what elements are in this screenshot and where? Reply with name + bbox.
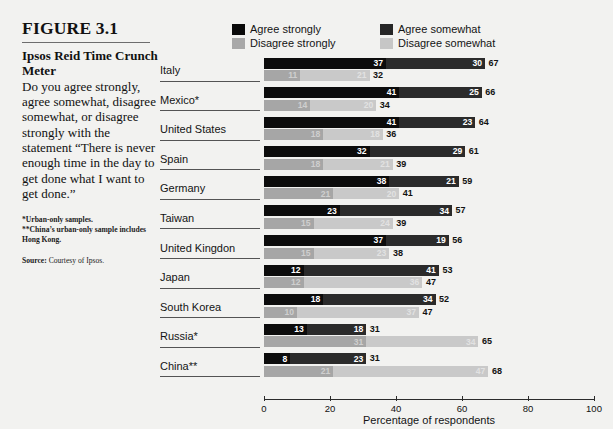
country-label: Spain [160, 153, 252, 165]
figure-rule [22, 42, 150, 43]
bar-segment-agree-strongly: 37 [264, 235, 386, 246]
bar-segment-value: 21 [446, 177, 459, 186]
legend-item-label: Disagree strongly [250, 37, 336, 49]
bar-total-value: 65 [482, 336, 492, 347]
disagree-bar-row: 152338 [264, 248, 403, 259]
bar-segment-value: 23 [354, 355, 367, 364]
bar-segment-value: 20 [364, 101, 377, 110]
bar-segment-value: 31 [354, 338, 367, 347]
bar-segment-agree-somewhat: 18 [307, 324, 366, 335]
country-label: Italy [160, 64, 252, 76]
country-label-rule [160, 81, 260, 82]
bar-total-value: 41 [403, 188, 413, 199]
country-group: United States412364181836 [160, 115, 600, 145]
legend-item-agree-somewhat: Agree somewhat [380, 23, 562, 35]
agree-bar-row: 371956 [264, 235, 462, 246]
country-group: Germany382159212041 [160, 174, 600, 204]
bar-segment-value: 23 [377, 249, 390, 258]
disagree-bar-row: 152439 [264, 218, 406, 229]
bar-segment-value: 47 [476, 367, 489, 376]
agree-bar-row: 322961 [264, 146, 479, 157]
axis-tick-label: 100 [586, 403, 602, 414]
bar-segment-value: 38 [377, 177, 390, 186]
bar-segment-disagree-somewhat: 21 [300, 70, 369, 81]
figure-container: FIGURE 3.1 Ipsos Reid Time Crunch Meter … [0, 0, 613, 429]
bar-segment-agree-strongly: 41 [264, 117, 399, 128]
bar-segment-agree-strongly: 8 [264, 353, 290, 364]
bar-total-value: 61 [469, 146, 479, 157]
bar-segment-agree-strongly: 37 [264, 58, 386, 69]
bar-segment-value: 13 [294, 325, 307, 334]
bar-segment-agree-strongly: 32 [264, 146, 370, 157]
bar-segment-disagree-somewhat: 24 [314, 218, 393, 229]
figure-description: Do you agree strongly, agree somewhat, d… [22, 79, 162, 202]
bars-wrapper: 371956152338 [264, 234, 594, 264]
bar-segment-value: 32 [357, 147, 370, 156]
country-group: South Korea183452103747 [160, 293, 600, 323]
country-label: Russia* [160, 330, 252, 342]
bar-segment-disagree-somewhat: 47 [333, 366, 488, 377]
bar-segment-value: 14 [298, 101, 311, 110]
agree-bar-row: 131831 [264, 324, 380, 335]
agree-bar-row: 124153 [264, 265, 452, 276]
bar-total-value: 53 [442, 265, 452, 276]
bar-segment-value: 18 [311, 130, 324, 139]
country-group: Japan124153123647 [160, 263, 600, 293]
bar-segment-disagree-strongly: 15 [264, 248, 314, 259]
bar-total-value: 34 [380, 100, 390, 111]
bar-segment-disagree-strongly: 21 [264, 188, 333, 199]
bar-segment-agree-strongly: 23 [264, 205, 340, 216]
bar-segment-value: 29 [453, 147, 466, 156]
bar-segment-value: 12 [291, 278, 304, 287]
legend-swatch-icon [232, 38, 245, 49]
agree-bar-row: 373067 [264, 58, 499, 69]
bar-total-value: 57 [456, 205, 466, 216]
country-label-rule [160, 347, 260, 348]
legend-swatch-icon [232, 24, 245, 35]
bar-segment-disagree-strongly: 18 [264, 159, 323, 170]
disagree-bar-row: 212041 [264, 188, 413, 199]
disagree-bar-row: 182139 [264, 159, 406, 170]
bar-segment-value: 21 [321, 367, 334, 376]
bar-segment-disagree-strongly: 31 [264, 336, 366, 347]
bar-segment-value: 23 [327, 207, 340, 216]
axis-tick-label: 0 [261, 403, 266, 414]
bars-wrapper: 124153123647 [264, 263, 594, 293]
agree-bar-row: 412566 [264, 87, 495, 98]
country-label: United States [160, 123, 252, 135]
country-label-rule [160, 228, 260, 229]
bar-segment-disagree-strongly: 14 [264, 100, 310, 111]
bar-segment-value: 37 [407, 308, 420, 317]
footnotes: *Urban-only samples. **China’s urban-onl… [22, 215, 162, 245]
bar-segment-agree-somewhat: 41 [304, 265, 439, 276]
country-group: Taiwan233457152439 [160, 204, 600, 234]
figure-number: FIGURE 3.1 [22, 18, 162, 42]
bar-segment-agree-somewhat: 23 [290, 353, 366, 364]
plot-area: Italy373067112132Mexico*412566142034Unit… [160, 56, 600, 406]
bar-segment-value: 12 [291, 266, 304, 275]
country-label-rule [160, 288, 260, 289]
bar-segment-value: 41 [387, 118, 400, 127]
bar-segment-agree-somewhat: 34 [323, 294, 435, 305]
country-label: Japan [160, 271, 252, 283]
bar-segment-disagree-strongly: 11 [264, 70, 300, 81]
bar-total-value: 31 [370, 324, 380, 335]
bar-segment-disagree-strongly: 15 [264, 218, 314, 229]
legend-item-label: Agree strongly [250, 23, 321, 35]
bar-segment-agree-strongly: 38 [264, 176, 389, 187]
agree-bar-row: 382159 [264, 176, 472, 187]
bar-segment-agree-somewhat: 29 [370, 146, 466, 157]
axis-tick-label: 60 [457, 403, 468, 414]
bar-total-value: 39 [396, 218, 406, 229]
bar-total-value: 52 [439, 294, 449, 305]
bar-segment-value: 10 [284, 308, 297, 317]
bar-segment-disagree-somewhat: 34 [366, 336, 478, 347]
bar-segment-value: 41 [387, 88, 400, 97]
bar-total-value: 47 [423, 307, 433, 318]
x-axis-title: Percentage of respondents [363, 414, 495, 426]
bar-segment-value: 15 [301, 219, 314, 228]
figure-title: Ipsos Reid Time Crunch Meter [22, 48, 162, 79]
source-line: Source: Courtesy of Ipsos. [22, 256, 162, 265]
legend-item-disagree-strongly: Disagree strongly [232, 37, 380, 49]
bar-segment-value: 34 [423, 295, 436, 304]
